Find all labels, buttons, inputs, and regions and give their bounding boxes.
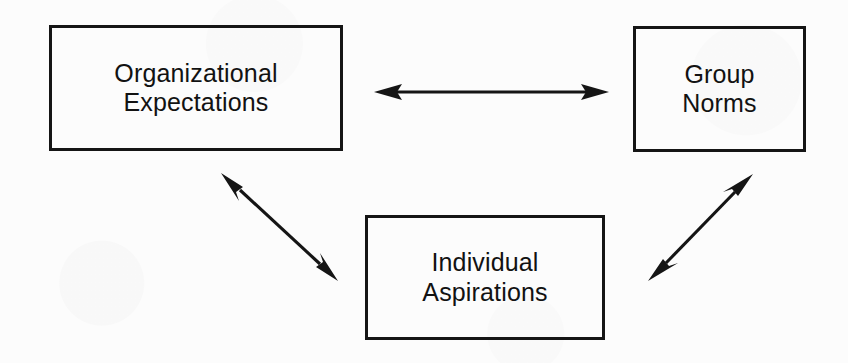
node-organizational-expectations: Organizational Expectations [49,25,343,151]
arrow-org-expectations-individual-aspirations [221,173,338,281]
node-individual-aspirations: Individual Aspirations [365,215,605,340]
node-group-norms: Group Norms [633,26,806,152]
node-label-group-norms: Group Norms [682,60,756,119]
arrow-org-expectations-group-norms [374,84,609,100]
diagram-canvas: Organizational Expectations Group Norms … [0,0,848,363]
arrow-group-norms-individual-aspirations [648,174,753,281]
node-label-individual-aspirations: Individual Aspirations [422,248,547,307]
node-label-organizational-expectations: Organizational Expectations [114,59,277,118]
